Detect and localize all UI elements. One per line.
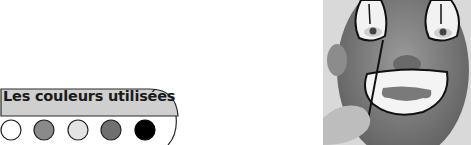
swatch-black: [135, 120, 155, 140]
clown-face-photo: [323, 0, 471, 145]
swatch-white: [1, 120, 21, 140]
swatch-dark-gray: [101, 120, 121, 140]
swatch-medium-gray: [34, 120, 54, 140]
swatch-light-gray: [68, 120, 88, 140]
badge-title: Les couleurs utilisées: [3, 88, 175, 104]
